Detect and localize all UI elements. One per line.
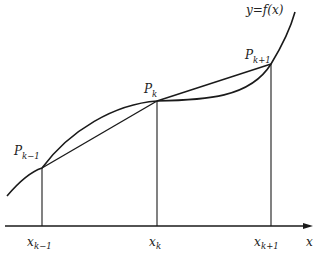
svg-text:k+1: k+1 bbox=[253, 55, 271, 65]
svg-text:x: x bbox=[149, 235, 156, 249]
x-axis-label: x bbox=[306, 235, 313, 249]
svg-text:x: x bbox=[27, 235, 34, 249]
chord-k-minus-1-to-k bbox=[42, 101, 157, 168]
x-label-k-plus-1: x k+1 bbox=[254, 235, 279, 251]
svg-text:k−1: k−1 bbox=[22, 151, 40, 161]
x-axis-arrowhead bbox=[303, 223, 313, 229]
svg-text:k: k bbox=[156, 241, 161, 251]
svg-text:k−1: k−1 bbox=[34, 241, 52, 251]
svg-text:x: x bbox=[254, 235, 261, 249]
svg-text:k+1: k+1 bbox=[261, 241, 279, 251]
curve-label: y=f(x) bbox=[245, 3, 284, 17]
point-label-k-minus-1: P k−1 bbox=[13, 144, 40, 161]
point-label-k-plus-1: P k+1 bbox=[244, 48, 271, 65]
point-label-k: P k bbox=[143, 82, 157, 99]
svg-text:k: k bbox=[152, 89, 157, 99]
x-label-k: x k bbox=[149, 235, 161, 251]
diagram-canvas: y=f(x) P k−1 P k P k+1 x k−1 x k x k+1 x bbox=[0, 0, 318, 258]
x-label-k-minus-1: x k−1 bbox=[27, 235, 52, 251]
